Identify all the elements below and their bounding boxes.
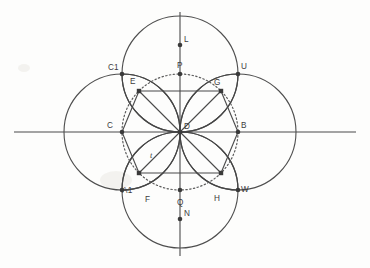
chord-f-d <box>139 132 180 173</box>
vertex-point-c1 <box>120 72 125 77</box>
label-l: L <box>184 35 189 44</box>
paper-smudge <box>18 64 30 72</box>
label-h: H <box>214 194 220 203</box>
label-n: N <box>184 209 190 218</box>
vertex-point-w <box>236 188 241 193</box>
construction-diagram: LC1PUEGCDBtFHA1QWN <box>0 0 370 268</box>
label-q: Q <box>177 198 184 207</box>
vertex-point-n <box>178 217 183 222</box>
label-e: E <box>130 77 136 86</box>
vertex-point-c <box>120 130 125 135</box>
label-c1: C1 <box>108 63 119 72</box>
chord-h-d <box>180 132 221 173</box>
vertex-point-l <box>178 43 183 48</box>
vertex-point-q <box>178 188 183 193</box>
chord-e-d <box>139 91 180 132</box>
vertex-point-g <box>219 89 223 93</box>
vertex-point-e <box>137 89 141 93</box>
axes-group <box>14 12 356 256</box>
label-u: U <box>241 62 247 71</box>
vertex-point-d <box>178 130 183 135</box>
label-c: C <box>107 121 113 130</box>
vertex-point-p <box>178 72 183 77</box>
label-f: F <box>145 195 150 204</box>
vertex-point-b <box>236 130 241 135</box>
label-b: B <box>241 121 247 130</box>
label-w: W <box>241 185 249 194</box>
vertex-point-u <box>236 72 241 77</box>
label-a1: A1 <box>122 186 133 195</box>
label-g: G <box>214 78 221 87</box>
geometry-figure-canvas: LC1PUEGCDBtFHA1QWN <box>0 0 370 268</box>
vertex-point-f <box>137 171 141 175</box>
label-d: D <box>184 122 190 131</box>
label-t: t <box>150 151 153 160</box>
label-p: P <box>177 61 183 70</box>
vertex-point-h <box>219 171 223 175</box>
